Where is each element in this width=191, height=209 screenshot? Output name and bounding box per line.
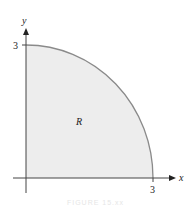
region-label: R xyxy=(75,116,82,127)
y-axis-arrow-icon xyxy=(23,28,29,35)
x-tick-label: 3 xyxy=(150,184,155,195)
x-axis-label: x xyxy=(178,172,184,183)
region-r-fill xyxy=(26,45,153,178)
region-diagram: y x 3 3 R xyxy=(0,0,191,209)
y-tick-label: 3 xyxy=(13,40,18,51)
y-axis-label: y xyxy=(21,15,27,26)
x-axis-arrow-icon xyxy=(169,175,176,181)
figure-caption: FIGURE 15.xx xyxy=(0,199,191,206)
